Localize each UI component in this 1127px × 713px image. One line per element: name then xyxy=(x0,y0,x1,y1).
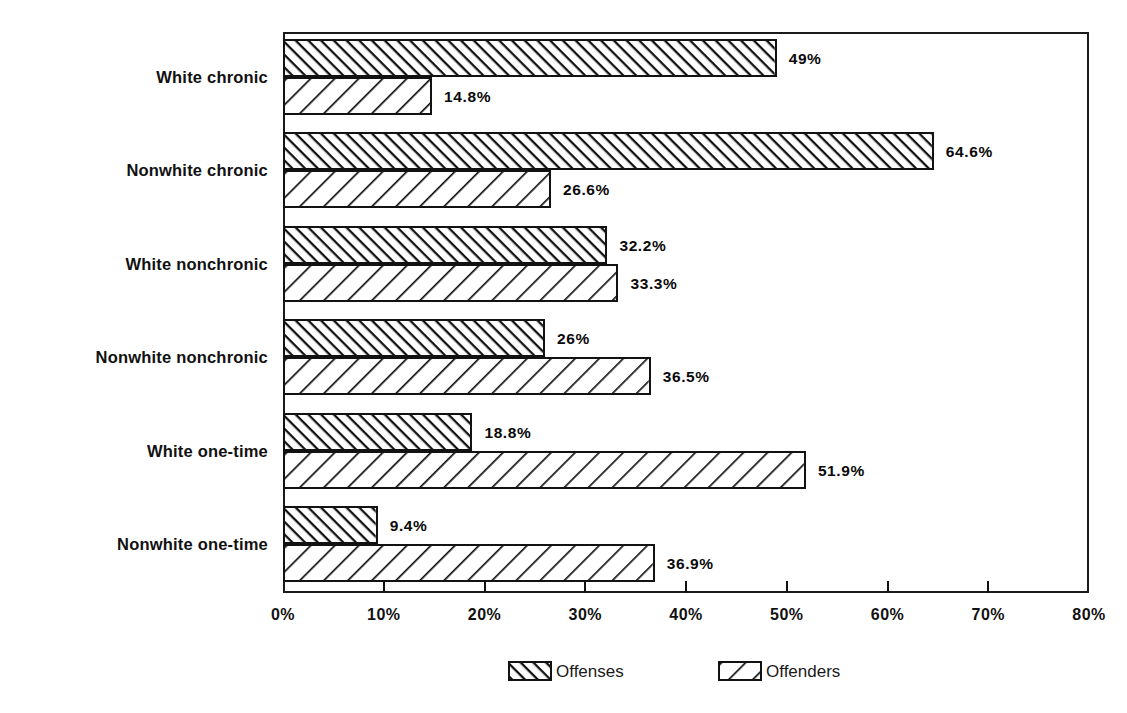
legend-swatch-offenses xyxy=(508,661,552,681)
chart-legend: OffensesOffenders xyxy=(0,0,1127,713)
legend-label-offenses: Offenses xyxy=(556,663,624,680)
legend-swatch-offenders xyxy=(718,661,762,681)
bar-chart: White chronicNonwhite chronicWhite nonch… xyxy=(0,0,1127,713)
legend-label-offenders: Offenders xyxy=(766,663,840,680)
